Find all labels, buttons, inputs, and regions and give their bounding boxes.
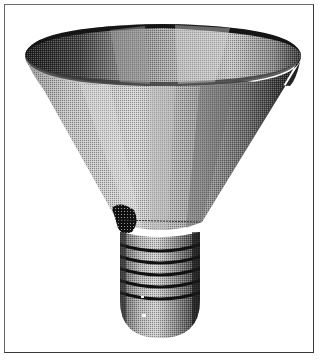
funnel-rim: [25, 24, 301, 86]
funnel-illustration: [0, 0, 326, 360]
threaded-base: [118, 232, 202, 342]
